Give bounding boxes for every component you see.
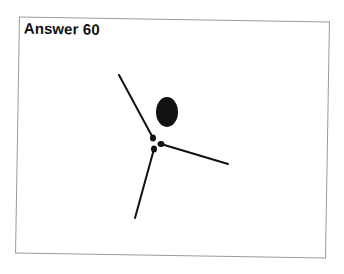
upper-left-line <box>119 75 153 138</box>
endpoint-dot <box>150 135 156 142</box>
right-line <box>161 144 228 164</box>
endpoint-dot <box>158 141 165 147</box>
lower-line <box>135 149 154 218</box>
line-figure <box>0 0 344 274</box>
filled-oval <box>156 97 178 127</box>
endpoint-dot <box>151 146 157 153</box>
